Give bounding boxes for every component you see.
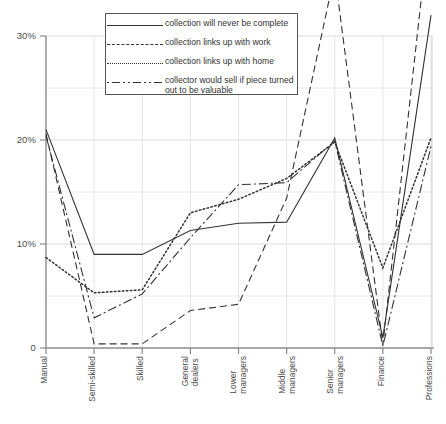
y-tick-label-20: 20% <box>2 134 36 145</box>
x-tick-label-senior-managers: Senior managers <box>326 356 345 394</box>
x-tick-line-2: managers <box>239 356 249 394</box>
chart-legend: collection will never be complete collec… <box>105 13 298 95</box>
legend-label: collection will never be complete <box>165 18 288 29</box>
x-tick-line-2: managers <box>336 356 346 394</box>
x-tick-label-general-dealers: General dealers <box>181 356 200 386</box>
y-tick-label-0: 0 <box>2 342 36 353</box>
legend-label: collector would sell if piece turned out… <box>165 75 294 95</box>
x-tick-line-1: Skilled <box>136 356 146 381</box>
chart-figure: 30% 20% 10% 0 Manual Semi-skilled Skille… <box>0 0 446 424</box>
x-tick-label-finance: Finance <box>377 356 387 386</box>
x-tick-line-2: managers <box>288 356 298 394</box>
x-tick-label-skilled: Skilled <box>136 356 146 381</box>
legend-label: collection links up with work <box>165 37 271 48</box>
x-tick-line-2: dealers <box>191 356 201 386</box>
x-tick-line-1: Finance <box>377 356 387 386</box>
y-tick-label-10: 10% <box>2 238 36 249</box>
legend-swatch-dotted-icon <box>109 59 165 69</box>
legend-item-1: collection links up with work <box>109 37 294 56</box>
x-tick-label-lower-managers: Lower managers <box>229 356 248 394</box>
x-tick-label-middle-managers: Middle managers <box>278 356 297 394</box>
x-tick-line-1: Manual <box>40 356 50 384</box>
x-tick-label-manual: Manual <box>40 356 50 384</box>
legend-item-0: collection will never be complete <box>109 18 294 37</box>
x-tick-line-1: Professions <box>425 356 435 400</box>
legend-item-2: collection links up with home <box>109 56 294 75</box>
legend-swatch-dashed-icon <box>109 40 165 50</box>
legend-item-3: collector would sell if piece turned out… <box>109 75 294 97</box>
x-tick-line-1: Semi-skilled <box>88 356 98 402</box>
legend-swatch-solid-icon <box>109 21 165 31</box>
x-tick-label-semi-skilled: Semi-skilled <box>88 356 98 402</box>
y-tick-label-30: 30% <box>2 30 36 41</box>
legend-swatch-dashdot-icon <box>109 78 165 88</box>
x-tick-label-professions: Professions <box>425 356 435 400</box>
legend-label: collection links up with home <box>165 56 274 67</box>
